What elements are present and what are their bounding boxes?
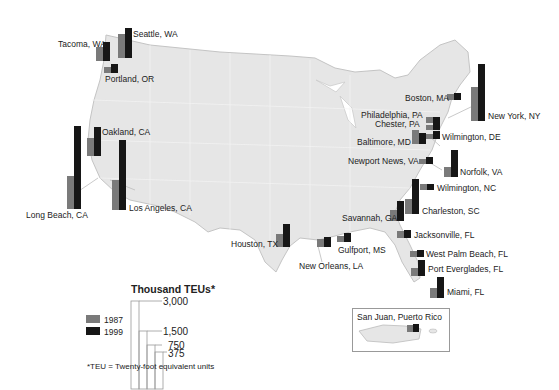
scale-tick-1500: 1,500 (163, 327, 188, 337)
scale-tick-375: 375 (168, 349, 185, 359)
footnote: *TEU = Twenty-foot equivalent units (87, 362, 214, 371)
scale-tick-3000: 3,000 (163, 297, 188, 307)
scale-bars (0, 0, 559, 390)
port-traffic-map: Seattle, WA Tacoma, WA Portland, OR Oakl… (0, 0, 559, 390)
